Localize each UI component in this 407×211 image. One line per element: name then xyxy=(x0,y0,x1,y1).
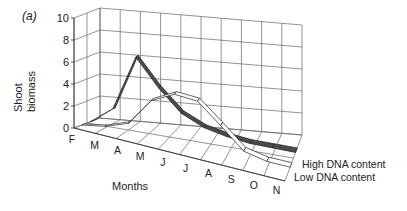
svg-text:M: M xyxy=(136,150,145,162)
svg-text:10: 10 xyxy=(57,12,69,24)
svg-text:6: 6 xyxy=(63,56,69,68)
legend-low-dna: Low DNA content xyxy=(294,171,375,183)
y-axis-label-line2: biomass xyxy=(25,71,37,112)
grid-lines xyxy=(74,8,302,181)
svg-text:J: J xyxy=(183,162,188,174)
svg-text:J: J xyxy=(160,156,165,168)
x-axis-label: Months xyxy=(112,180,149,192)
svg-text:A: A xyxy=(205,167,212,179)
svg-text:A: A xyxy=(114,144,121,156)
legend-high-dna: High DNA content xyxy=(302,158,386,170)
svg-text:N: N xyxy=(273,184,281,196)
svg-text:8: 8 xyxy=(63,34,69,46)
svg-text:2: 2 xyxy=(63,100,69,112)
svg-text:F: F xyxy=(69,133,75,145)
axes: 0246810FMAMJJASON xyxy=(57,12,285,196)
panel-label: (a) xyxy=(22,9,37,23)
svg-text:4: 4 xyxy=(63,78,69,90)
chart: 0246810FMAMJJASON (a) Shoot biomass Mont… xyxy=(0,0,407,211)
svg-text:M: M xyxy=(90,139,99,151)
y-axis-label: Shoot biomass xyxy=(12,71,37,112)
svg-text:O: O xyxy=(250,179,258,191)
svg-text:S: S xyxy=(228,173,235,185)
y-axis-label-line1: Shoot xyxy=(12,83,24,112)
